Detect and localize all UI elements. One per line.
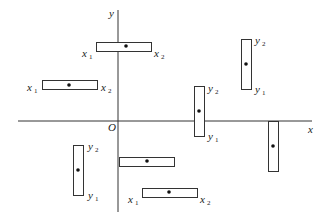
horizontal-rectangle <box>97 43 152 52</box>
x-axis-label: x <box>307 123 313 135</box>
bound-label-y2: y2 <box>254 34 266 48</box>
interval-box-h: x1x2 <box>127 189 211 208</box>
subscript: 2 <box>215 88 219 96</box>
subscript: 1 <box>95 195 99 203</box>
center-dot <box>145 159 149 163</box>
y-axis-label: y <box>108 7 114 19</box>
bound-label-y1: y1 <box>254 83 266 97</box>
bound-label-y1: y1 <box>87 189 99 203</box>
diagram-canvas: y O x x1x2x1x2y2y1y2y1y2y1x1x2 <box>0 0 326 221</box>
center-dot <box>124 44 128 48</box>
interval-box-g <box>120 158 175 167</box>
subscript: 2 <box>95 146 99 154</box>
interval-box-a: x1x2 <box>81 43 165 62</box>
subscript: 2 <box>262 40 266 48</box>
center-dot <box>197 109 201 113</box>
subscript: 2 <box>108 87 112 95</box>
center-dot <box>244 62 248 66</box>
bound-label-x1: x1 <box>127 193 139 207</box>
bound-label-x1: x1 <box>26 81 38 95</box>
center-dot <box>271 144 275 148</box>
interval-box-d: y2y1 <box>195 82 219 144</box>
bound-label-x2: x2 <box>100 81 112 95</box>
coordinate-diagram: y O x x1x2x1x2y2y1y2y1y2y1x1x2 <box>0 0 326 221</box>
center-dot <box>167 190 171 194</box>
bound-label-x1: x1 <box>81 47 93 61</box>
interval-box-c: y2y1 <box>242 34 266 97</box>
bound-label-y1: y1 <box>207 130 219 144</box>
subscript: 1 <box>262 89 266 97</box>
subscript: 1 <box>215 136 219 144</box>
subscript: 1 <box>89 53 93 61</box>
interval-box-e <box>269 122 279 172</box>
subscript: 1 <box>135 199 139 207</box>
subscript: 2 <box>207 199 211 207</box>
origin-label: O <box>108 121 116 133</box>
bound-label-x2: x2 <box>199 193 211 207</box>
bound-label-y2: y2 <box>87 140 99 154</box>
subscript: 2 <box>161 53 165 61</box>
interval-box-b: x1x2 <box>26 81 112 96</box>
bound-label-x2: x2 <box>153 47 165 61</box>
center-dot <box>76 168 80 172</box>
center-dot <box>67 83 71 87</box>
interval-box-f: y2y1 <box>74 140 99 203</box>
bound-label-y2: y2 <box>207 82 219 96</box>
subscript: 1 <box>34 87 38 95</box>
